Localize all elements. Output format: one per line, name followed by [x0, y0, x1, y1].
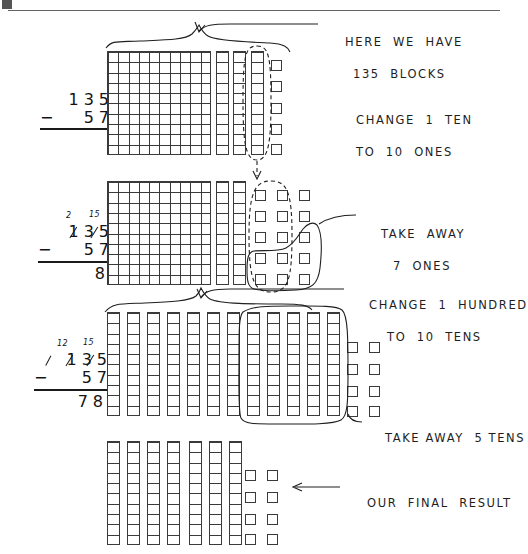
label-take-away-5-tens: TAKE AWAY 5 TENS	[364, 416, 525, 461]
ten-rod	[187, 312, 200, 416]
answer-digits: 78	[78, 392, 108, 411]
sum-row-minuend: 135	[34, 350, 112, 368]
one-block	[271, 60, 282, 71]
ten-rod	[209, 441, 222, 545]
ten-rod-circled	[251, 51, 264, 155]
arrow-head-final-result	[293, 483, 302, 491]
minus-sign: −	[34, 368, 47, 387]
regroup-mark-ones: 15	[89, 210, 100, 219]
hundred-flat	[107, 181, 211, 285]
label-here-we-have-135-blocks: HERE WE HAVE 135 BLOCKS	[324, 18, 463, 98]
scan-top-rule	[8, 10, 500, 11]
one-block	[271, 144, 282, 155]
sum-step-1: 135 − 57	[40, 90, 114, 126]
one-block	[347, 406, 358, 417]
ten-rod	[227, 312, 240, 416]
sum-rule	[38, 261, 114, 263]
one-block	[299, 253, 310, 264]
sum-row-subtrahend: − 57	[34, 368, 112, 386]
one-block	[299, 190, 310, 201]
one-block	[369, 364, 380, 375]
sum-rule	[34, 389, 112, 391]
one-block	[369, 342, 380, 353]
brace-over-12-rods	[105, 288, 312, 312]
one-block	[245, 534, 256, 545]
one-block	[271, 81, 282, 92]
regroup-mark-tens: 2	[66, 211, 72, 220]
label-line-2: TO 10 TENS	[387, 329, 482, 345]
strike-through-hundreds-digit	[45, 356, 51, 366]
ten-rod	[216, 51, 229, 155]
one-block	[347, 386, 358, 397]
arrow-head-change-hundred	[197, 289, 207, 298]
one-block	[245, 514, 256, 525]
ten-rod	[127, 441, 140, 545]
ten-rod	[229, 441, 242, 545]
one-block	[271, 124, 282, 135]
arrow-to-here-we-have	[199, 24, 318, 31]
ten-rod	[207, 312, 220, 416]
ten-rod	[233, 51, 246, 155]
ten-rod	[147, 441, 160, 545]
sum-row-subtrahend: − 57	[38, 240, 114, 258]
sum-rule	[40, 128, 114, 130]
ten-rod	[216, 181, 229, 285]
one-block-new	[277, 274, 288, 285]
one-block	[299, 274, 310, 285]
ten-rod	[127, 312, 140, 416]
ten-rod	[189, 441, 202, 545]
ten-rod	[107, 312, 120, 416]
hundred-flat	[107, 51, 211, 155]
leader-take-away-7-ones	[319, 215, 356, 224]
one-block	[267, 470, 278, 481]
one-block	[271, 103, 282, 114]
one-block-new	[277, 232, 288, 243]
sum-row-subtrahend: − 57	[40, 108, 114, 126]
regroup-mark-tens: 12	[57, 339, 68, 348]
one-block	[267, 514, 278, 525]
label-line-2: TO 10 ONES	[356, 145, 453, 159]
leader-change-hundred-to-tens	[201, 289, 344, 297]
sum-row-minuend: 135	[38, 222, 114, 240]
ten-rod-circled	[287, 312, 300, 416]
one-block	[369, 386, 380, 397]
one-block	[299, 232, 310, 243]
label-line-1: CHANGE 1 TEN	[356, 113, 473, 127]
ten-rod	[147, 312, 160, 416]
minus-sign: −	[40, 108, 53, 127]
minus-sign: −	[38, 240, 51, 259]
sum-step-3: 12 15 135 − 57 78	[34, 350, 112, 386]
label-line-1: TAKE AWAY 5 TENS	[385, 431, 525, 445]
one-block-new	[255, 274, 266, 285]
one-block	[267, 534, 278, 545]
sum-step-2: 2 15 135 − 57 8	[38, 222, 114, 258]
one-block-new	[277, 211, 288, 222]
regroup-mark-ones: 15	[83, 338, 94, 347]
ten-rod	[107, 441, 120, 545]
label-take-away-7-ones: TAKE AWAY 7 ONES	[360, 210, 465, 290]
one-block	[245, 492, 256, 503]
one-block	[267, 492, 278, 503]
one-block-new	[255, 211, 266, 222]
ten-rod	[233, 181, 246, 285]
dashed-arrow-head	[253, 171, 261, 179]
one-block	[299, 211, 310, 222]
arrow-head-here-we-have	[195, 22, 205, 32]
label-our-final-result: OUR FINAL RESULT	[346, 481, 512, 526]
label-line-1: HERE WE HAVE	[345, 35, 463, 49]
ten-rod	[167, 441, 180, 545]
one-block	[245, 470, 256, 481]
label-line-2: 7 ONES	[393, 258, 451, 274]
one-block-new	[255, 232, 266, 243]
label-change-1-ten-to-10-ones: CHANGE 1 TEN TO 10 ONES	[335, 96, 473, 176]
ten-rod-circled	[327, 312, 340, 416]
label-line-1: OUR FINAL RESULT	[367, 496, 512, 510]
one-block-new	[255, 253, 266, 264]
one-block	[347, 364, 358, 375]
sum-row-minuend: 135	[40, 90, 114, 108]
scan-corner-artifact	[2, 0, 12, 9]
one-block-new	[255, 190, 266, 201]
ten-rod-circled	[267, 312, 280, 416]
ten-rod	[167, 312, 180, 416]
